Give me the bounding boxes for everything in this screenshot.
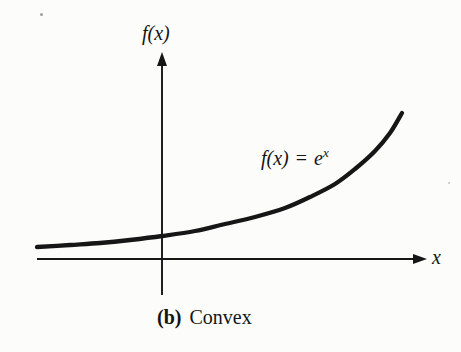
x-axis-label: x (432, 246, 441, 268)
equation-exponent: x (323, 145, 329, 160)
caption: (b)Convex (157, 306, 252, 329)
curve-equation-label: f(x)=ex (261, 147, 329, 169)
caption-index: (b) (157, 306, 181, 328)
y-axis-label: f(x) (142, 22, 170, 44)
scan-speckle (448, 182, 450, 184)
equation-lhs: f(x) (261, 147, 289, 169)
figure-panel: f(x) x f(x)=ex (b)Convex (0, 0, 461, 352)
equation-equals: = (296, 147, 307, 169)
caption-text: Convex (189, 306, 251, 328)
scan-speckle (40, 13, 43, 16)
plot-svg (0, 0, 461, 352)
equation-base: e (314, 147, 323, 169)
